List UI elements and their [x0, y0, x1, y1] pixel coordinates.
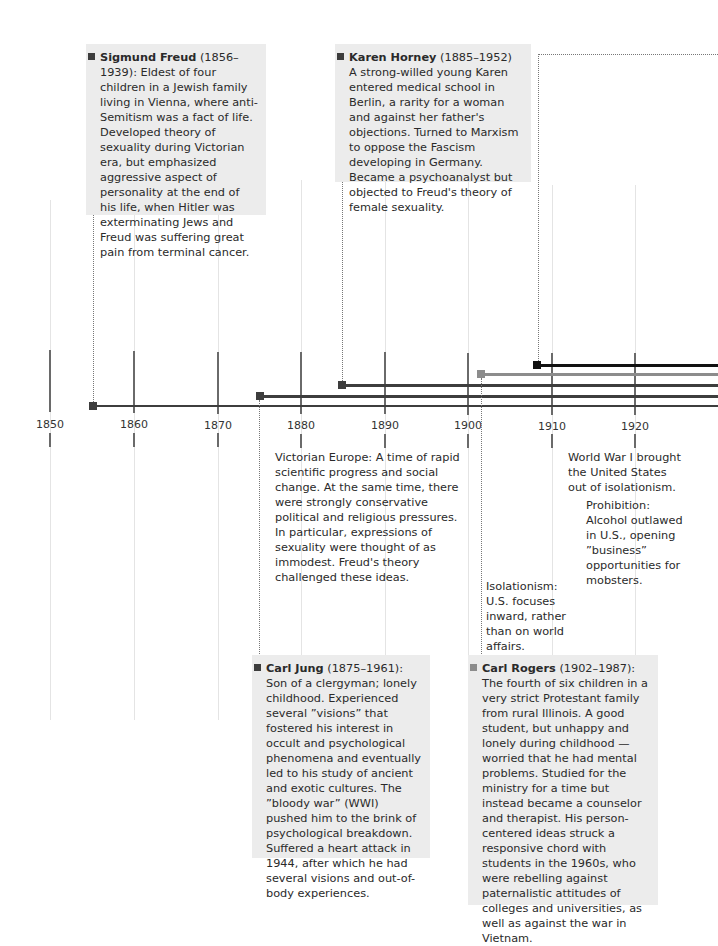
- jung-dates: (1875–1961):: [324, 662, 403, 675]
- year-label-1850: 1850: [36, 418, 64, 431]
- birth-marker-jung: [256, 392, 264, 400]
- lifeline-unlabeled-black: [537, 364, 718, 367]
- year-label-1890: 1890: [371, 419, 399, 432]
- note-victorian-europe: Victorian Europe: A time of rapid scient…: [275, 450, 461, 585]
- jung-name: Carl Jung: [266, 662, 324, 675]
- gridline-1850: [50, 200, 51, 720]
- tick-1890-lower: [384, 434, 386, 448]
- birth-marker-horney: [338, 381, 346, 389]
- rogers-name: Carl Rogers: [482, 662, 556, 675]
- horney-name: Karen Horney: [349, 51, 436, 64]
- year-label-1920: 1920: [621, 420, 649, 433]
- freud-bio: Eldest of four children in a Jewish fami…: [100, 66, 258, 259]
- freud-square-icon: [88, 53, 95, 60]
- tick-1860-lower: [133, 433, 135, 447]
- gridline-1870: [218, 200, 219, 720]
- tick-1870-lower: [217, 433, 219, 447]
- bio-card-freud: Sigmund Freud (1856–1939): Eldest of fou…: [86, 44, 266, 215]
- lifeline-jung: [260, 395, 718, 398]
- bio-card-rogers: Carl Rogers (1902–1987): The fourth of s…: [468, 655, 658, 905]
- tick-1900-lower: [467, 434, 469, 448]
- rogers-square-icon: [470, 664, 477, 671]
- connector-unlabeled: [538, 54, 539, 361]
- lifeline-horney: [342, 384, 718, 387]
- connector-rogers: [481, 378, 482, 662]
- tick-1880-lower: [300, 434, 302, 448]
- note-wwi: World War I brought the United States ou…: [568, 450, 688, 495]
- note-isolationism: Isolationism: U.S. focuses inward, rathe…: [486, 579, 576, 654]
- connector-unlabeled-horizontal: [538, 54, 718, 55]
- gridline-1860: [134, 200, 135, 720]
- bio-card-jung: Carl Jung (1875–1961): Son of a clergyma…: [252, 655, 430, 858]
- rogers-bio: The fourth of six children in a very str…: [482, 677, 648, 945]
- year-label-1880: 1880: [287, 419, 315, 432]
- freud-name: Sigmund Freud: [100, 51, 196, 64]
- jung-square-icon: [254, 664, 261, 671]
- horney-bio: A strong-willed young Karen entered medi…: [349, 66, 518, 214]
- horney-dates: (1885–1952): [436, 51, 512, 64]
- birth-marker-freud: [89, 402, 97, 410]
- tick-1860-upper: [133, 351, 135, 413]
- birth-marker-rogers: [477, 370, 485, 378]
- year-label-1900: 1900: [454, 419, 482, 432]
- year-label-1870: 1870: [204, 419, 232, 432]
- tick-1850-lower: [49, 433, 51, 447]
- lifeline-rogers: [481, 373, 718, 376]
- rogers-dates: (1902–1987):: [556, 662, 635, 675]
- note-prohibition: Prohibition: Alcohol outlawed in U.S., o…: [586, 498, 686, 588]
- jung-bio: Son of a clergyman; lonely childhood. Ex…: [266, 677, 421, 900]
- tick-1850-upper: [49, 350, 51, 412]
- bio-card-horney: Karen Horney (1885–1952) A strong-willed…: [335, 44, 531, 182]
- tick-1910-lower: [551, 434, 553, 448]
- lifeline-freud: [93, 405, 718, 407]
- year-label-1910: 1910: [538, 420, 566, 433]
- birth-marker-unlabeled: [533, 361, 541, 369]
- horney-square-icon: [337, 53, 344, 60]
- connector-jung: [259, 400, 260, 662]
- year-label-1860: 1860: [120, 418, 148, 431]
- tick-1920-lower: [634, 434, 636, 448]
